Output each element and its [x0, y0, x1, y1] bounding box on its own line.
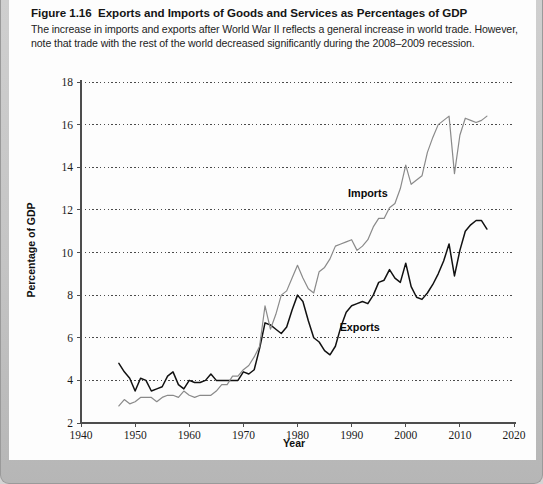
y-tick-label-14: 14: [62, 161, 74, 173]
x-tick-label-1940: 1940: [70, 429, 93, 441]
x-tick-label-2010: 2010: [448, 429, 471, 441]
line-chart-svg: 24681012141618 1940195019601970198019902…: [9, 0, 536, 460]
x-tick-label-2020: 2020: [503, 429, 526, 441]
annotation-imports: Imports: [348, 187, 388, 199]
series-line-exports: [119, 221, 487, 392]
y-tick-label-4: 4: [67, 374, 73, 386]
y-tick-label-10: 10: [62, 247, 74, 259]
y-axis-title: Percentage of GDP: [25, 202, 37, 297]
x-tick-label-1960: 1960: [178, 429, 201, 441]
chart-plot-area: 24681012141618 1940195019601970198019902…: [9, 0, 536, 460]
annotation-exports: Exports: [340, 321, 380, 333]
y-tick-label-18: 18: [62, 76, 74, 88]
x-tick-label-2000: 2000: [394, 429, 417, 441]
data-series-group: [119, 116, 487, 406]
y-tick-labels-group: 24681012141618: [62, 76, 74, 429]
figure-panel: Figure 1.16 Exports and Imports of Goods…: [9, 0, 536, 460]
y-tick-label-6: 6: [67, 332, 73, 344]
series-line-imports: [119, 116, 487, 406]
x-tick-label-1950: 1950: [124, 429, 147, 441]
x-tick-label-1970: 1970: [232, 429, 255, 441]
y-tick-label-2: 2: [67, 417, 73, 429]
y-tick-label-16: 16: [62, 119, 74, 131]
gridlines-group: [81, 82, 514, 380]
x-axis-title: Year: [283, 437, 305, 449]
y-tick-label-12: 12: [62, 204, 74, 216]
y-tick-label-8: 8: [67, 289, 73, 301]
figure-frame: Figure 1.16 Exports and Imports of Goods…: [0, 0, 543, 484]
tickmarks-group: [77, 82, 514, 427]
x-tick-label-1990: 1990: [340, 429, 363, 441]
